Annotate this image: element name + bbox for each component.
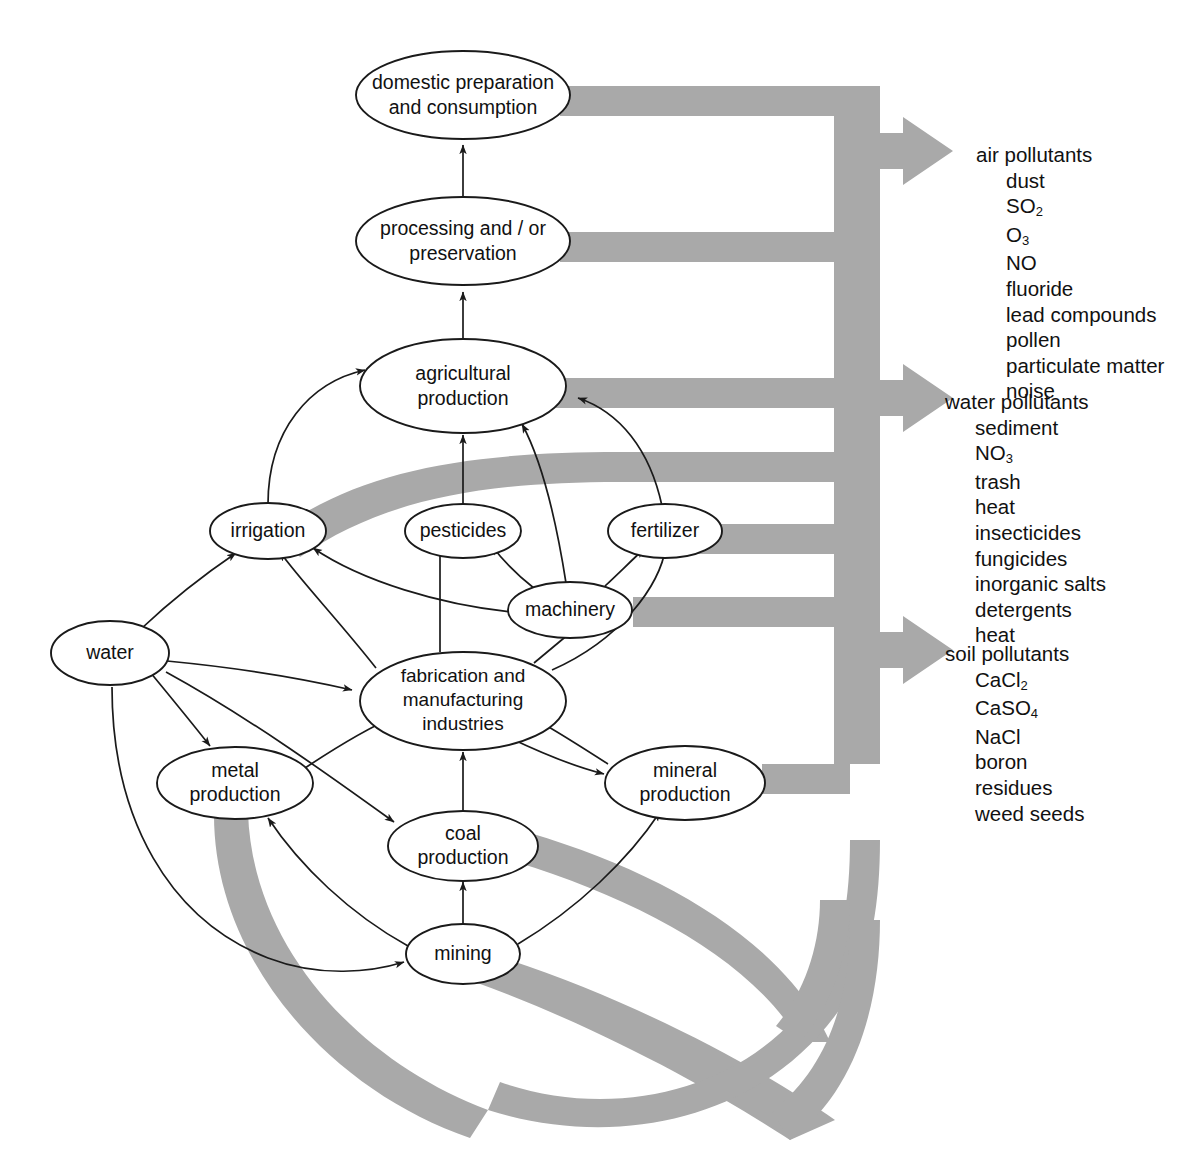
- edge-fabrication-irrigation: [280, 552, 376, 668]
- legend-air-item: SO2: [1006, 193, 1164, 222]
- node-processing-preservation-line2: preservation: [409, 242, 516, 264]
- edge-fabrication-mineral: [510, 738, 604, 774]
- legend-water-item: NO3: [975, 440, 1106, 469]
- pipe-arrow-soil: [880, 616, 953, 684]
- node-domestic-preparation-line1: domestic preparation: [372, 71, 554, 93]
- legend-soil-item: CaSO4: [975, 695, 1084, 724]
- legend-soil-item: boron: [975, 749, 1084, 775]
- node-fabrication-line2: manufacturing: [403, 689, 523, 710]
- legend-air-item: dust: [1006, 168, 1164, 194]
- edge-machinery-agriculture: [522, 424, 566, 583]
- node-processing-preservation[interactable]: processing and / or preservation: [356, 197, 570, 285]
- legend-soil-item: NaCl: [975, 724, 1084, 750]
- pipe-from-machinery: [633, 597, 850, 627]
- node-processing-preservation-line1: processing and / or: [380, 217, 546, 239]
- legend-water-pollutants: water pollutants sediment NO3 trash heat…: [945, 389, 1106, 648]
- node-water-label: water: [85, 641, 134, 663]
- edge-water-fabrication: [167, 661, 352, 690]
- node-fertilizer-label: fertilizer: [631, 519, 700, 541]
- node-mining[interactable]: mining: [406, 924, 520, 984]
- node-fabrication-manufacturing[interactable]: fabrication and manufacturing industries: [360, 652, 566, 750]
- diagram-canvas: domestic preparation and consumption pro…: [0, 0, 1182, 1152]
- legend-air-item: lead compounds: [1006, 302, 1164, 328]
- node-mineral-production[interactable]: mineral production: [605, 746, 765, 820]
- node-machinery[interactable]: machinery: [508, 582, 632, 638]
- node-water[interactable]: water: [51, 621, 169, 685]
- edge-mineral-fabrication: [540, 722, 608, 764]
- node-fertilizer[interactable]: fertilizer: [608, 504, 722, 558]
- node-agricultural-production-line2: production: [417, 387, 508, 409]
- legend-air-item: NO: [1006, 250, 1164, 276]
- legend-air-heading: air pollutants: [976, 142, 1164, 168]
- pipe-from-processing: [560, 232, 850, 262]
- edge-mining-metal: [268, 818, 408, 946]
- node-agricultural-production[interactable]: agricultural production: [360, 339, 566, 433]
- legend-water-item: sediment: [975, 415, 1106, 441]
- node-domestic-preparation[interactable]: domestic preparation and consumption: [356, 51, 570, 139]
- node-irrigation[interactable]: irrigation: [210, 503, 326, 559]
- node-mineral-production-line2: production: [639, 783, 730, 805]
- node-mineral-production-line1: mineral: [653, 759, 717, 781]
- legend-air-item: pollen: [1006, 327, 1164, 353]
- legend-water-item: insecticides: [975, 520, 1106, 546]
- edge-water-irrigation: [142, 553, 236, 628]
- node-metal-production-line1: metal: [211, 759, 259, 781]
- legend-soil-pollutants: soil pollutants CaCl2 CaSO4 NaCl boron r…: [945, 641, 1084, 826]
- legend-water-item: trash: [975, 469, 1106, 495]
- edge-machinery-irrigation: [313, 548, 522, 613]
- legend-water-item: inorganic salts: [975, 571, 1106, 597]
- legend-water-item: fungicides: [975, 546, 1106, 572]
- legend-air-pollutants: air pollutants dust SO2 O3 NO fluoride l…: [976, 142, 1164, 404]
- pipe-from-agriculture: [556, 378, 850, 408]
- pipe-arrow-water: [880, 364, 953, 432]
- node-pesticides-label: pesticides: [420, 519, 507, 541]
- node-domestic-preparation-line2: and consumption: [389, 96, 538, 118]
- legend-air-item: O3: [1006, 222, 1164, 251]
- node-irrigation-label: irrigation: [231, 519, 306, 541]
- pipe-arrow-air: [880, 117, 953, 185]
- node-pesticides[interactable]: pesticides: [405, 504, 521, 558]
- legend-air-item: fluoride: [1006, 276, 1164, 302]
- pipe-trunk: [834, 86, 880, 764]
- node-coal-production-line2: production: [417, 846, 508, 868]
- node-metal-production-line2: production: [189, 783, 280, 805]
- pipe-from-mineral: [762, 764, 850, 794]
- legend-air-item: particulate matter: [1006, 353, 1164, 379]
- node-coal-production-line1: coal: [445, 822, 481, 844]
- node-machinery-label: machinery: [525, 598, 615, 620]
- edge-water-metal: [150, 672, 210, 746]
- legend-water-item: heat: [975, 494, 1106, 520]
- legend-soil-item: residues: [975, 775, 1084, 801]
- node-coal-production[interactable]: coal production: [388, 811, 538, 881]
- node-agricultural-production-line1: agricultural: [415, 362, 510, 384]
- legend-water-heading: water pollutants: [945, 389, 1106, 415]
- node-fabrication-line3: industries: [422, 713, 503, 734]
- legend-soil-heading: soil pollutants: [945, 641, 1084, 667]
- node-metal-production[interactable]: metal production: [157, 747, 313, 819]
- node-fabrication-line1: fabrication and: [401, 665, 526, 686]
- legend-soil-item: CaCl2: [975, 667, 1084, 696]
- node-mining-label: mining: [434, 942, 491, 964]
- legend-soil-item: weed seeds: [975, 801, 1084, 827]
- legend-water-item: detergents: [975, 597, 1106, 623]
- edge-irrigation-agriculture: [268, 370, 365, 504]
- pipe-from-domestic: [560, 86, 850, 116]
